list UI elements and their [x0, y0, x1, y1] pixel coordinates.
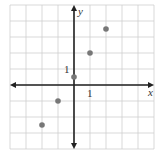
- y-tick-label: 1: [64, 63, 70, 75]
- data-point: [71, 74, 77, 80]
- coordinate-plane: x y 1 1: [0, 0, 162, 155]
- axes: [10, 5, 154, 149]
- y-axis-label: y: [77, 5, 83, 17]
- x-tick-label: 1: [87, 87, 93, 99]
- data-point: [55, 98, 61, 104]
- data-point: [87, 50, 93, 56]
- x-axis-label: x: [147, 86, 153, 98]
- grid: [10, 5, 154, 149]
- data-point: [103, 26, 109, 32]
- y-axis-arrow-up-icon: [71, 5, 77, 11]
- x-axis-arrow-left-icon: [10, 82, 16, 88]
- data-point: [39, 122, 45, 128]
- y-axis-arrow-down-icon: [71, 143, 77, 149]
